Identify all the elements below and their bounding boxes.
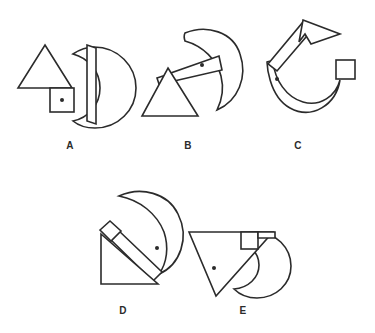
option-e-label: E (233, 305, 253, 316)
option-d-label: D (113, 305, 133, 316)
option-d-dot (155, 246, 159, 250)
option-a-bar (87, 45, 96, 124)
option-b-dot (200, 63, 204, 67)
option-a-dot (60, 98, 64, 102)
canvas-background (0, 0, 375, 333)
shape-options-diagram (0, 0, 375, 333)
option-e-square (241, 232, 258, 249)
option-c-square (336, 60, 355, 79)
option-c-dot (275, 77, 279, 81)
option-e-bar (258, 232, 275, 238)
option-b-label: B (178, 140, 198, 151)
option-c-label: C (288, 140, 308, 151)
option-a-label: A (60, 140, 80, 151)
option-e-dot (212, 266, 216, 270)
